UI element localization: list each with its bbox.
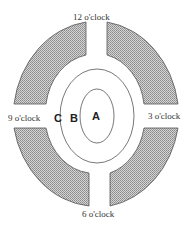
label-3-oclock: 3 o'clock [148, 111, 180, 121]
zone-c-label: C [54, 112, 62, 124]
label-9-oclock: 9 o'clock [8, 113, 40, 123]
zone-a-label: A [92, 110, 100, 122]
segment-bottom-left [14, 128, 89, 206]
label-12-oclock: 12 o'clock [73, 12, 110, 22]
segment-top-left [14, 22, 86, 104]
label-6-oclock: 6 o'clock [82, 209, 114, 219]
segment-top-right [107, 22, 178, 104]
zone-b-label: B [70, 112, 78, 124]
segment-bottom-right [110, 128, 178, 206]
